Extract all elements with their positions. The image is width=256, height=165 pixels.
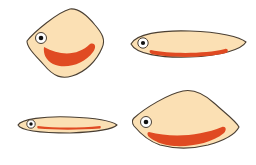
- fish-shapes-canvas: [0, 0, 256, 165]
- fish-4: [133, 91, 240, 149]
- fish-diagram: [0, 0, 256, 165]
- fish-2: [131, 31, 246, 57]
- pupil-icon: [39, 36, 44, 41]
- pupil-icon: [29, 122, 32, 125]
- pupil-icon: [141, 41, 145, 45]
- pupil-icon: [144, 120, 149, 125]
- fish-1: [27, 9, 104, 77]
- fish-3: [18, 117, 117, 133]
